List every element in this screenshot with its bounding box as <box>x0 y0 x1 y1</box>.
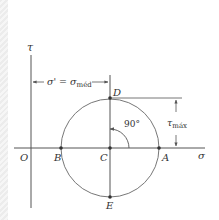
label-E: E <box>105 200 114 211</box>
point-C <box>108 146 112 150</box>
origin-label: O <box>20 152 28 163</box>
mohr-circle-diagram: τ σ O B C A D E σ' = σméd τmáx 90° <box>0 0 219 220</box>
angle-arc <box>110 129 129 148</box>
point-D <box>108 96 112 100</box>
point-E <box>108 195 112 199</box>
tau-axis-label: τ <box>27 41 34 54</box>
label-B: B <box>53 152 61 163</box>
label-A: A <box>161 152 169 163</box>
tau-max-label: τmáx <box>167 117 187 130</box>
point-B <box>59 146 63 150</box>
sigma-prime-label: σ' = σméd <box>47 76 92 89</box>
sigma-axis-label: σ <box>198 150 206 161</box>
point-A <box>157 146 161 150</box>
label-C: C <box>100 152 108 163</box>
angle-label: 90° <box>124 119 140 129</box>
label-D: D <box>112 87 121 98</box>
